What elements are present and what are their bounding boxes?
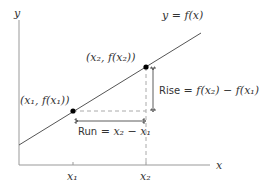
slope-diagram: y x x₁ x₂ y = f(x) Run = x₂ − x₁ Rise = …: [0, 0, 278, 190]
point-1: [70, 108, 75, 113]
point-1-label: (x₁, f(x₁)): [20, 94, 69, 107]
function-label: y = f(x): [161, 9, 203, 22]
y-axis-label: y: [13, 7, 21, 20]
point-2: [143, 64, 148, 69]
rise-label: Rise = f(x₂) − f(x₁): [159, 84, 259, 97]
tick-label-x2: x₂: [140, 170, 151, 183]
point-2-label: (x₂, f(x₂)): [86, 51, 135, 64]
x-axis-label: x: [216, 159, 223, 172]
run-label: Run = x₂ − x₁: [78, 125, 151, 138]
tick-label-x1: x₁: [67, 170, 78, 183]
